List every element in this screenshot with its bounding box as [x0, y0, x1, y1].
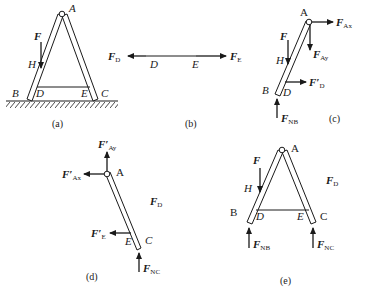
force-fd-label: FD — [325, 174, 338, 188]
hinge-a — [306, 19, 312, 25]
force-fe-prime-label: F′E — [90, 227, 106, 241]
point-c-label: C — [320, 210, 327, 222]
point-e-label: E — [80, 87, 88, 99]
force-f-label: F — [252, 154, 261, 166]
force-fd-label: FD — [149, 195, 162, 209]
point-b-label: B — [230, 206, 237, 218]
force-fnc-label: FNC — [142, 262, 160, 276]
point-h-label: H — [27, 58, 37, 70]
point-e-label: E — [296, 210, 304, 222]
point-c-label: C — [145, 234, 153, 246]
force-fax-label: FAx — [335, 16, 352, 30]
caption-c: (c) — [329, 113, 340, 125]
force-f-label: F — [33, 30, 42, 42]
point-b-label: B — [262, 84, 269, 96]
force-fd-label: FD — [107, 50, 120, 64]
panel-a: F A H B D E C (a) — [6, 2, 118, 130]
free-body-diagram-figure: F A H B D E C (a) FD FE D E (b) FAx FAy … — [0, 0, 366, 296]
point-d-label: D — [282, 86, 291, 98]
point-h-label: H — [275, 54, 285, 66]
panel-e: F FD FNB FNC A H B D E C (e) — [230, 142, 338, 287]
bar-ac — [62, 14, 98, 101]
point-a-label: A — [300, 6, 308, 18]
force-fax-prime-label: F′Ax — [61, 168, 81, 182]
force-fay-prime-label: F′Ay — [97, 138, 117, 152]
caption-d: (d) — [86, 271, 98, 283]
force-fnb-label: FNB — [280, 112, 298, 126]
point-c-label: C — [101, 87, 109, 99]
point-e-label: E — [191, 58, 199, 70]
caption-b: (b) — [185, 118, 197, 130]
point-e-label: E — [124, 235, 132, 247]
ground-hatch — [6, 102, 118, 108]
point-d-label: D — [149, 58, 158, 70]
hinge-a — [59, 11, 65, 17]
force-fnc-label: FNC — [316, 238, 334, 252]
panel-b: FD FE D E (b) — [107, 50, 242, 130]
force-f-label: F — [279, 30, 288, 42]
caption-e: (e) — [280, 275, 291, 287]
hinge-a — [279, 147, 285, 153]
point-a-label: A — [68, 2, 76, 14]
point-b-label: B — [12, 87, 19, 99]
force-fnb-label: FNB — [252, 238, 270, 252]
point-d-label: D — [35, 87, 44, 99]
bar-ac — [106, 172, 141, 250]
force-fay-label: FAy — [312, 48, 329, 62]
force-fe-label: FE — [229, 50, 242, 64]
point-d-label: D — [255, 210, 264, 222]
caption-a: (a) — [52, 118, 63, 130]
point-a-label: A — [291, 142, 299, 154]
hinge-a — [104, 171, 110, 177]
panel-d: F′Ay F′Ax FD F′E FNC A E C (d) — [61, 138, 162, 283]
point-a-label: A — [116, 166, 124, 178]
point-h-label: H — [243, 182, 253, 194]
force-fd-prime-label: F′D — [308, 76, 325, 90]
panel-c: FAx FAy F F′D FNB A H B D (c) — [262, 6, 352, 126]
